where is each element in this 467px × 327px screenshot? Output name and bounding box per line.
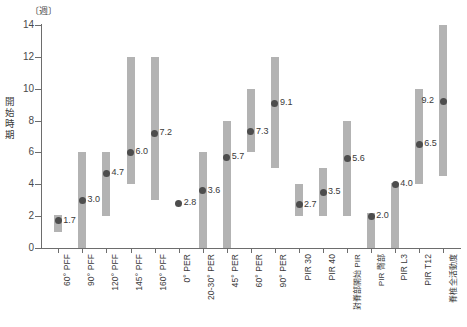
data-point-label: 6.0 — [136, 146, 149, 156]
y-axis-tick-label: 2 — [14, 210, 34, 221]
data-point-marker — [368, 213, 375, 220]
x-axis-category-label: 90° PER — [278, 254, 288, 287]
data-point-label: 5.7 — [232, 151, 245, 161]
data-point-marker — [271, 100, 278, 107]
range-bar — [223, 121, 231, 248]
data-point-label: 4.0 — [400, 178, 413, 188]
range-bar-chart: 〔週〕 開始時期 02468101214 1.73.04.76.07.22.83… — [0, 0, 467, 327]
x-axis-category-label: 0° PER — [182, 254, 192, 283]
x-axis-tick — [395, 248, 396, 253]
data-point-marker — [79, 197, 86, 204]
data-point-label: 1.7 — [63, 215, 76, 225]
data-point-label: 2.7 — [304, 199, 317, 209]
y-axis-title: 開始時期 — [4, 96, 16, 140]
data-point-marker — [175, 200, 182, 207]
x-axis-category-label: 90° PFF — [86, 254, 96, 286]
data-point-label: 2.8 — [184, 197, 197, 207]
range-bar — [391, 183, 399, 248]
y-axis-tick-label: 6 — [14, 146, 34, 157]
data-point-label: 7.2 — [160, 127, 173, 137]
x-axis-category-label: PIR 30 — [303, 254, 313, 281]
y-axis-tick — [35, 248, 41, 249]
y-axis-tick-label: 14 — [14, 19, 34, 30]
data-point-label: 3.5 — [328, 186, 341, 196]
y-axis-tick-label: 4 — [14, 178, 34, 189]
plot-area: 1.73.04.76.07.22.83.65.77.39.12.73.55.62… — [41, 25, 461, 248]
x-axis-tick — [419, 248, 420, 253]
x-axis-category-label: PIR 40 — [327, 254, 337, 281]
data-point-label: 9.2 — [421, 95, 434, 105]
data-point-marker — [127, 149, 134, 156]
x-axis-tick — [131, 248, 132, 253]
x-axis-tick — [58, 248, 59, 253]
y-axis-unit-label: 〔週〕 — [30, 4, 57, 17]
x-axis-category-label: 對脊部開始 PIR — [351, 254, 362, 310]
x-axis-tick — [275, 248, 276, 253]
y-axis-tick-label: 0 — [14, 242, 34, 253]
x-axis-category-label: PIR L3 — [399, 254, 409, 281]
y-axis-tick-label: 12 — [14, 51, 34, 62]
data-point-label: 7.3 — [256, 126, 269, 136]
range-bar — [199, 152, 207, 248]
x-axis-tick — [155, 248, 156, 253]
data-point-label: 2.0 — [376, 210, 389, 220]
data-point-label: 3.6 — [208, 185, 221, 195]
x-axis-tick — [227, 248, 228, 253]
x-axis-tick — [371, 248, 372, 253]
data-point-label: 9.1 — [280, 97, 293, 107]
y-axis-tick-label: 8 — [14, 115, 34, 126]
data-point-marker — [320, 189, 327, 196]
range-bar — [271, 57, 279, 169]
x-axis-tick — [203, 248, 204, 253]
data-point-marker — [151, 130, 158, 137]
data-point-marker — [392, 181, 399, 188]
x-axis-tick — [179, 248, 180, 253]
range-bar — [247, 89, 255, 153]
data-point-marker — [344, 155, 351, 162]
x-axis-category-label: 145° PFF — [134, 254, 144, 291]
x-axis-category-label: 60° PER — [254, 254, 264, 287]
range-bar — [102, 152, 110, 216]
range-bar — [343, 121, 351, 217]
x-axis-category-label: 160° PFF — [158, 254, 168, 291]
x-axis-tick — [323, 248, 324, 253]
x-axis-category-label: PIR 臀部 — [375, 254, 386, 286]
range-bar — [127, 57, 135, 184]
x-axis-category-label: 脊椎全活動度 — [447, 254, 458, 303]
range-bar — [295, 184, 303, 216]
x-axis-tick — [443, 248, 444, 253]
x-axis-tick — [82, 248, 83, 253]
x-axis-tick — [251, 248, 252, 253]
x-axis-tick — [106, 248, 107, 253]
x-axis-category-label: PIR T12 — [423, 254, 433, 286]
data-point-marker — [416, 141, 423, 148]
data-point-label: 4.7 — [111, 167, 124, 177]
data-point-label: 6.5 — [424, 138, 437, 148]
x-axis-category-label: 60° PFF — [62, 254, 72, 286]
x-axis-category-label: 120° PFF — [110, 254, 120, 291]
data-point-marker — [440, 98, 447, 105]
range-bar — [151, 57, 159, 200]
x-axis-tick — [299, 248, 300, 253]
x-axis-category-label: 45° PER — [230, 254, 240, 287]
data-point-label: 5.6 — [352, 153, 365, 163]
x-axis-tick — [347, 248, 348, 253]
data-point-label: 3.0 — [87, 194, 100, 204]
y-axis-tick-label: 10 — [14, 83, 34, 94]
data-point-marker — [103, 170, 110, 177]
data-point-marker — [223, 154, 230, 161]
x-axis-category-label: 20-30° PER — [206, 254, 216, 300]
